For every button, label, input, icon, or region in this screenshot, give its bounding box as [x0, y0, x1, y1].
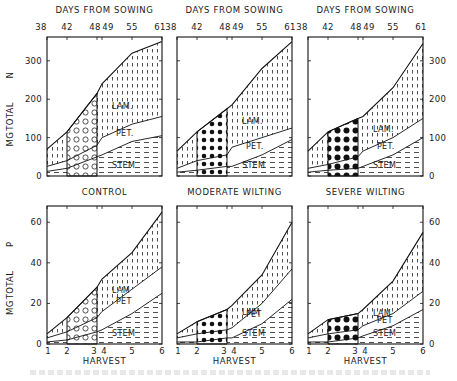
top-axis-tick: 61 — [415, 22, 426, 32]
label-stem: STEM — [112, 329, 135, 338]
label-petiole: PET — [116, 297, 132, 306]
y-axis-tick-left: 20 — [31, 298, 42, 308]
y-axis-tick-right: 20 — [429, 298, 440, 308]
highlight-interval-box — [197, 109, 227, 176]
y-axis-label-total: TOTAL — [5, 102, 15, 131]
y-axis-tick-left: 0 — [36, 339, 42, 349]
bottom-axis-tick: 1 — [306, 346, 312, 356]
y-axis-tick-left: 300 — [25, 56, 42, 66]
bottom-axis-tick: 3 — [221, 346, 227, 356]
y-axis-label-mg: MG — [5, 300, 15, 315]
top-axis-tick: 55 — [126, 22, 137, 32]
figure-canvas: LAM.PET.STEMDAYS FROM SOWING384248495561… — [0, 0, 457, 381]
y-axis-label-total: TOTAL — [5, 271, 15, 300]
y-axis-tick-right: 200 — [429, 94, 446, 104]
y-axis-tick-right: 100 — [429, 133, 446, 143]
bottom-axis-title: HARVEST — [213, 356, 257, 366]
panel-p-moderate-wilting: LAMPETSTEM123456HARVEST — [175, 206, 295, 366]
label-petiole: PET. — [246, 142, 264, 151]
bottom-axis-tick: 5 — [129, 346, 135, 356]
y-axis-tick-left: 0 — [36, 171, 42, 181]
label-petiole: PET. — [116, 129, 134, 138]
bottom-axis-tick: 5 — [259, 346, 265, 356]
top-axis-tick: 42 — [322, 22, 333, 32]
y-axis-tick-right: 60 — [429, 217, 440, 227]
top-axis-tick: 61 — [284, 22, 295, 32]
top-axis-tick: 42 — [191, 22, 202, 32]
panel-n-control: LAM.PET.STEMDAYS FROM SOWING384248495561… — [5, 5, 166, 197]
bottom-axis-tick: 6 — [289, 346, 295, 356]
label-lamina: LAM. — [242, 117, 263, 126]
bottom-axis-tick: 6 — [159, 346, 165, 356]
y-axis-tick-right: 40 — [429, 258, 440, 268]
y-axis-tick-right: 0 — [429, 339, 435, 349]
y-axis-tick-left: 60 — [31, 217, 42, 227]
label-stem: STEM — [373, 329, 396, 338]
top-axis-tick: 49 — [232, 22, 243, 32]
top-axis-tick: 38 — [35, 22, 46, 32]
top-axis-title: DAYS FROM SOWING — [317, 5, 415, 15]
bottom-axis-tick: 5 — [390, 346, 396, 356]
panel-title: MODERATE WILTING — [187, 187, 282, 197]
panel-n-moderate-wilting: LAM.PET.STEMDAYS FROM SOWING384248495561… — [165, 5, 295, 197]
bottom-axis-tick: 3 — [91, 346, 97, 356]
label-petiole: PET — [377, 316, 393, 325]
highlight-interval-box — [328, 314, 358, 344]
bottom-axis-title: HARVEST — [83, 356, 127, 366]
bottom-axis-tick: 3 — [352, 346, 358, 356]
label-stem: STEM — [242, 329, 265, 338]
highlight-interval-box — [328, 118, 358, 176]
bottom-axis-tick: 4 — [362, 346, 368, 356]
label-lamina: LAM. — [373, 125, 394, 134]
top-axis-tick: 48 — [89, 22, 100, 32]
figure-caption-illegible — [30, 370, 430, 375]
top-axis-tick: 61 — [154, 22, 165, 32]
panel-n-severe-wilting: LAM.PET.STEMDAYS FROM SOWING384248495561… — [296, 5, 446, 197]
top-axis-title: DAYS FROM SOWING — [56, 5, 154, 15]
label-petiole: PET. — [377, 142, 395, 151]
label-stem: STEM — [242, 161, 265, 170]
top-axis-tick: 48 — [219, 22, 230, 32]
bottom-axis-tick: 1 — [175, 346, 181, 356]
y-axis-label-element: P — [5, 242, 15, 247]
bottom-axis-tick: 2 — [194, 346, 200, 356]
bottom-axis-tick: 2 — [64, 346, 70, 356]
top-axis-title: DAYS FROM SOWING — [186, 5, 284, 15]
label-lamina: LAM — [112, 286, 130, 295]
panel-p-severe-wilting: LAMPETSTEM123456HARVEST0204060 — [306, 206, 440, 366]
panel-title: SEVERE WILTING — [326, 187, 405, 197]
y-axis-label-mg: MG — [5, 132, 15, 147]
top-axis-tick: 42 — [61, 22, 72, 32]
top-axis-tick: 38 — [165, 22, 176, 32]
bottom-axis-title: HARVEST — [344, 356, 388, 366]
bottom-axis-tick: 1 — [45, 346, 51, 356]
y-axis-tick-left: 40 — [31, 258, 42, 268]
panel-p-control: LAMPETSTEM123456HARVEST0204060MGTOTALP — [5, 206, 165, 366]
y-axis-tick-left: 100 — [25, 133, 42, 143]
bottom-axis-tick: 4 — [231, 346, 237, 356]
top-axis-tick: 55 — [256, 22, 267, 32]
label-lamina: LAM. — [112, 102, 133, 111]
highlight-interval-box — [67, 93, 97, 176]
label-petiole: PET — [246, 310, 262, 319]
y-axis-tick-right: 0 — [429, 171, 435, 181]
y-axis-tick-right: 300 — [429, 56, 446, 66]
top-axis-tick: 49 — [363, 22, 374, 32]
y-axis-tick-left: 200 — [25, 94, 42, 104]
top-axis-tick: 38 — [296, 22, 307, 32]
bottom-axis-tick: 6 — [420, 346, 426, 356]
top-axis-tick: 48 — [350, 22, 361, 32]
bottom-axis-tick: 2 — [325, 346, 331, 356]
top-axis-tick: 55 — [387, 22, 398, 32]
label-stem: STEM — [112, 161, 135, 170]
label-stem: STEM — [373, 161, 396, 170]
top-axis-tick: 49 — [102, 22, 113, 32]
y-axis-label-element: N — [5, 72, 15, 79]
bottom-axis-tick: 4 — [101, 346, 107, 356]
panel-title: CONTROL — [82, 187, 128, 197]
